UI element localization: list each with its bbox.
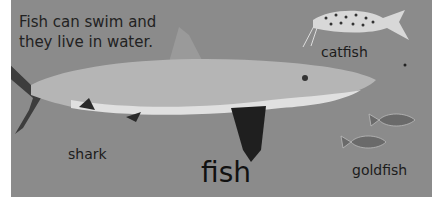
- shark-dorsal-fin: [169, 27, 203, 62]
- shark-label: shark: [68, 146, 107, 162]
- shark-pectoral-fin: [231, 106, 266, 162]
- catfish-label: catfish: [321, 44, 368, 60]
- title-fish: fish: [201, 156, 251, 189]
- illustration-panel: Fish can swim and they live in water. sh…: [11, 0, 432, 197]
- shark-eye: [302, 75, 308, 81]
- intro-line-2: they live in water.: [19, 32, 156, 52]
- catfish-image: [303, 10, 409, 47]
- goldfish-label: goldfish: [352, 162, 407, 178]
- goldfish-image: [341, 114, 415, 148]
- intro-text: Fish can swim and they live in water.: [19, 12, 156, 52]
- intro-line-1: Fish can swim and: [19, 12, 156, 32]
